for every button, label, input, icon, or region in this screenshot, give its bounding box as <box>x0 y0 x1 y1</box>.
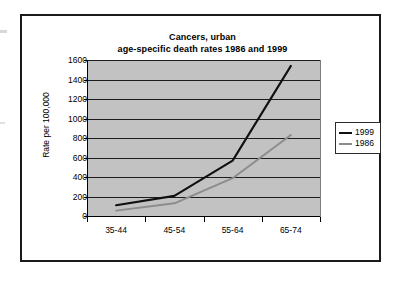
x-tick-mark-2 <box>204 217 205 222</box>
legend-swatch-1986 <box>339 143 352 145</box>
y-tick-label-1600: 1600 <box>53 56 87 64</box>
y-tick-label-0: 0 <box>53 212 87 220</box>
legend-label-1999: 1999 <box>355 128 374 137</box>
x-tick-label-65-74: 65-74 <box>262 225 320 235</box>
chart-title: Cancers, urban age-specific death rates … <box>22 32 383 55</box>
chart-page-frame: Cancers, urban age-specific death rates … <box>20 14 381 262</box>
scan-artifact-left <box>0 30 7 33</box>
line-chart: Cancers, urban age-specific death rates … <box>22 16 383 264</box>
x-tick-label-45-54: 45-54 <box>145 225 203 235</box>
plot-right-edge <box>320 60 321 217</box>
y-axis: 1600 1400 1200 1000 800 600 400 200 0 <box>47 60 87 217</box>
y-tick-label-800: 800 <box>53 134 87 142</box>
legend-swatch-1999 <box>339 132 352 134</box>
x-tick-mark-3 <box>262 217 263 222</box>
x-tick-label-35-44: 35-44 <box>87 225 145 235</box>
x-tick-mark-4 <box>320 217 321 222</box>
series-line-1999 <box>116 66 291 205</box>
y-tick-label-400: 400 <box>53 173 87 181</box>
series-line-1986 <box>116 135 291 211</box>
y-tick-label-200: 200 <box>53 193 87 201</box>
x-axis: 35-44 45-54 55-64 65-74 <box>87 217 321 247</box>
x-tick-mark-1 <box>145 217 146 222</box>
x-tick-label-55-64: 55-64 <box>204 225 262 235</box>
legend-label-1986: 1986 <box>355 139 374 148</box>
legend-item-1999[interactable]: 1999 <box>339 127 377 138</box>
scan-artifact-left-lower <box>0 122 5 124</box>
legend-item-1986[interactable]: 1986 <box>339 138 377 149</box>
y-tick-label-1400: 1400 <box>53 76 87 84</box>
series-plot <box>87 60 320 217</box>
chart-legend: 1999 1986 <box>335 122 381 154</box>
y-tick-label-600: 600 <box>53 154 87 162</box>
y-tick-label-1200: 1200 <box>53 95 87 103</box>
x-tick-mark-0 <box>87 217 88 222</box>
y-tick-label-1000: 1000 <box>53 115 87 123</box>
chart-title-line-1: Cancers, urban <box>169 32 236 42</box>
chart-title-line-2: age-specific death rates 1986 and 1999 <box>22 44 383 56</box>
